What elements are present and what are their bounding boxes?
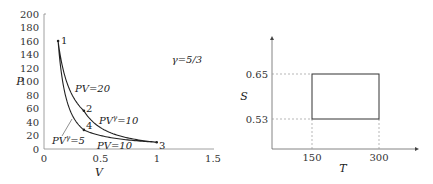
label-pv20: PV=20 — [74, 83, 111, 94]
y-axis-label: S — [240, 90, 248, 103]
label-pvg5: PVγ=5 — [51, 134, 85, 146]
x-ticks: 0 0.5 1 1.5 — [41, 153, 221, 164]
x-tick-300: 300 — [369, 152, 388, 163]
y-tick-065: 0.65 — [246, 69, 268, 80]
label-pv10: PV=10 — [96, 140, 133, 151]
y-axis-arrow-icon — [270, 36, 274, 40]
point-1-label: 1 — [61, 35, 67, 46]
svg-text:1.5: 1.5 — [205, 153, 221, 164]
svg-text:180: 180 — [20, 22, 39, 33]
svg-text:80: 80 — [26, 90, 39, 101]
point-4-label: 4 — [86, 120, 92, 131]
y-ticks: 0 20 40 60 80 100 120 140 160 180 200 — [20, 9, 46, 155]
y-axis-label: P — [15, 75, 24, 88]
svg-text:200: 200 — [20, 9, 39, 20]
x-axis-arrow-icon — [415, 147, 419, 151]
point-3-label: 3 — [159, 140, 165, 151]
cycle-points: 1 2 3 4 — [57, 35, 166, 151]
point-2-label: 2 — [86, 103, 92, 114]
svg-text:40: 40 — [26, 117, 39, 128]
svg-text:20: 20 — [26, 130, 39, 141]
svg-text:160: 160 — [20, 36, 39, 47]
svg-text:60: 60 — [26, 103, 39, 114]
gamma-annotation: γ=5/3 — [172, 54, 202, 65]
ts-chart: 0.65 0.53 150 300 T S — [240, 36, 419, 175]
svg-text:0: 0 — [41, 153, 47, 164]
svg-text:120: 120 — [20, 63, 39, 74]
carnot-rectangle — [312, 74, 379, 119]
x-tick-150: 150 — [302, 152, 321, 163]
x-axis-label: V — [95, 166, 104, 179]
x-axis-label: T — [339, 162, 348, 175]
svg-text:0.5: 0.5 — [93, 153, 109, 164]
svg-text:1: 1 — [154, 153, 160, 164]
label-pvg10: PVγ=10 — [98, 114, 139, 126]
guide-lines — [272, 74, 379, 149]
pv-chart: 0 20 40 60 80 100 120 140 160 180 200 0 … — [15, 9, 221, 180]
svg-text:140: 140 — [20, 49, 39, 60]
y-tick-053: 0.53 — [246, 114, 268, 125]
svg-text:0: 0 — [33, 144, 39, 155]
figure: 0 20 40 60 80 100 120 140 160 180 200 0 … — [0, 0, 433, 184]
